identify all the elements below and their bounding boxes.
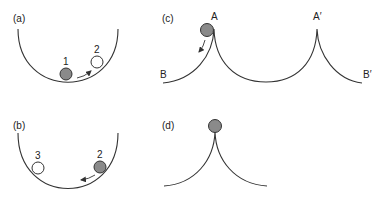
panel-c: (c) A A′ B B′ <box>160 11 372 83</box>
motion-arrow-c <box>199 40 205 52</box>
motion-arrow-b <box>81 175 95 180</box>
point-A-label: A <box>211 11 218 22</box>
panel-b-label: (b) <box>13 120 25 131</box>
cusp-curve-d <box>164 132 267 186</box>
ball-3-label: 3 <box>35 150 41 161</box>
motion-arrow-a <box>77 71 91 78</box>
point-B-label: B <box>160 69 167 80</box>
point-B-prime-label: B′ <box>363 69 372 80</box>
panel-d: (d) <box>162 120 267 187</box>
cusp-curve-c <box>163 29 362 83</box>
ball-on-cusp-c <box>201 24 214 37</box>
ball-1-filled <box>60 68 72 80</box>
diagram-canvas: (a) 1 2 (b) 3 2 (c) A A′ B B′ (d) <box>0 0 386 197</box>
ball-2-label-b: 2 <box>97 149 103 160</box>
ball-1-label: 1 <box>63 56 69 67</box>
ball-on-cusp-d <box>209 120 222 133</box>
ball-3-empty <box>32 162 44 174</box>
panel-d-label: (d) <box>162 120 174 131</box>
ball-2-empty <box>91 56 103 68</box>
panel-c-label: (c) <box>162 13 174 24</box>
ball-2-label: 2 <box>94 44 100 55</box>
panel-a-label: (a) <box>13 13 25 24</box>
bowl-curve-b <box>18 133 118 189</box>
panel-b: (b) 3 2 <box>13 120 118 189</box>
panel-a: (a) 1 2 <box>13 13 118 82</box>
ball-2-filled <box>94 161 106 173</box>
point-A-prime-label: A′ <box>313 11 322 22</box>
